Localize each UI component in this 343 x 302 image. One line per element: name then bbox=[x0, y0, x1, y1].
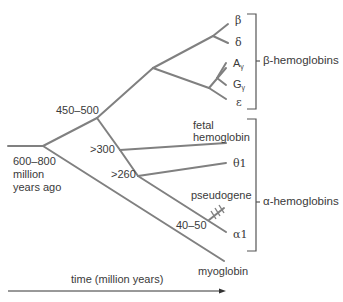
branch-beta bbox=[213, 24, 228, 36]
branch-epsilon bbox=[209, 88, 226, 99]
branch-theta1 bbox=[138, 163, 226, 176]
leaf-theta1: θ1 bbox=[233, 157, 247, 170]
leaf-pseudogene: pseudogene bbox=[191, 189, 252, 202]
leaf-fetal-hemoglobin: fetal hemoglobin bbox=[193, 119, 250, 143]
pseudogene-split-label: 40–50 bbox=[176, 219, 207, 232]
branch-fetal bbox=[120, 143, 226, 150]
fetal-line1: fetal bbox=[193, 119, 250, 131]
leaf-epsilon: ε bbox=[236, 96, 242, 109]
branch-beta-lineage bbox=[97, 68, 153, 118]
root-label-line2: million bbox=[13, 168, 61, 181]
root-label-line3: years ago bbox=[13, 181, 61, 194]
leaf-delta: δ bbox=[235, 36, 242, 49]
branch-myoglobin bbox=[43, 146, 224, 261]
root-label-line1: 600–800 bbox=[13, 155, 61, 168]
fetal-line2: hemoglobin bbox=[193, 131, 250, 143]
branch-beta-delta bbox=[153, 36, 213, 68]
branch-gamma-epsilon bbox=[153, 68, 209, 88]
branch-g-gamma bbox=[217, 78, 226, 85]
leaf-alpha1: α1 bbox=[233, 228, 247, 241]
beta-hemoglobins-label: β-hemoglobins bbox=[263, 54, 339, 67]
theta-split-label: >260 bbox=[111, 168, 136, 181]
leaf-a-gamma: Aγ bbox=[233, 57, 244, 73]
leaf-beta: β bbox=[235, 14, 241, 27]
branch-root-to-alpha-beta bbox=[43, 118, 97, 146]
a-gamma-sub: γ bbox=[240, 63, 244, 70]
tree-diagram bbox=[0, 0, 343, 302]
g-gamma-main: G bbox=[233, 78, 242, 90]
g-gamma-sub: γ bbox=[242, 84, 246, 91]
leaf-g-gamma: Gγ bbox=[233, 78, 245, 94]
time-axis-label: time (million years) bbox=[71, 273, 163, 286]
leaf-myoglobin: myoglobin bbox=[198, 265, 248, 278]
root-node-label: 600–800 million years ago bbox=[13, 155, 61, 194]
alpha-hemoglobins-label: α-hemoglobins bbox=[263, 195, 339, 208]
branch-delta bbox=[213, 36, 228, 43]
time-axis-arrowhead bbox=[219, 289, 226, 294]
beta-bracket bbox=[247, 14, 256, 109]
alpha-beta-split-label: 450–500 bbox=[56, 104, 99, 117]
fetal-split-label: >300 bbox=[90, 143, 115, 156]
